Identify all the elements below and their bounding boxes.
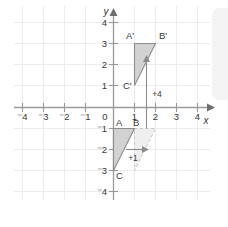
x-tick-label--4: ⁻4	[17, 111, 27, 122]
coordinate-plane-figure: ⁻4 ⁻3 ⁻2 ⁻1 1 2 3 4 0 4 3 2 1 ⁻1 ⁻2 ⁻3 ⁻…	[0, 0, 228, 227]
y-tick-label-2: 2	[102, 59, 107, 70]
origin-label: 0	[102, 111, 107, 122]
vertex-label-b: B	[133, 117, 139, 128]
x-tick-label-2: 2	[153, 111, 158, 122]
x-tick-label--3: ⁻3	[38, 111, 48, 122]
x-tick-label-4: 4	[195, 111, 200, 122]
y-axis-label: y	[103, 6, 110, 17]
y-tick-label--3: ⁻3	[97, 165, 107, 176]
y-tick-label--2: ⁻2	[97, 144, 107, 155]
vertex-label-c: C	[116, 170, 123, 181]
horizontal-translation-label: +1	[128, 153, 138, 163]
vertex-label-a-prime: A'	[126, 30, 134, 41]
coordinate-plane-svg: ⁻4 ⁻3 ⁻2 ⁻1 1 2 3 4 0 4 3 2 1 ⁻1 ⁻2 ⁻3 ⁻…	[0, 0, 228, 227]
vertex-label-a: A	[116, 117, 123, 128]
x-axis-label: x	[203, 115, 210, 126]
vertex-label-b-prime: B'	[159, 30, 167, 41]
x-tick-label-3: 3	[174, 111, 179, 122]
y-tick-label--1: ⁻1	[97, 123, 107, 134]
y-tick-label-3: 3	[102, 38, 107, 49]
x-tick-label--1: ⁻1	[80, 111, 90, 122]
vertical-translation-label: +4	[152, 89, 162, 99]
vertex-label-c-prime: C'	[123, 80, 132, 91]
y-tick-label-4: 4	[102, 17, 107, 28]
x-tick-label--2: ⁻2	[59, 111, 69, 122]
y-tick-label-1: 1	[102, 80, 107, 91]
edge-panel-decoration	[212, 8, 228, 100]
y-tick-label--4: ⁻4	[97, 186, 107, 197]
